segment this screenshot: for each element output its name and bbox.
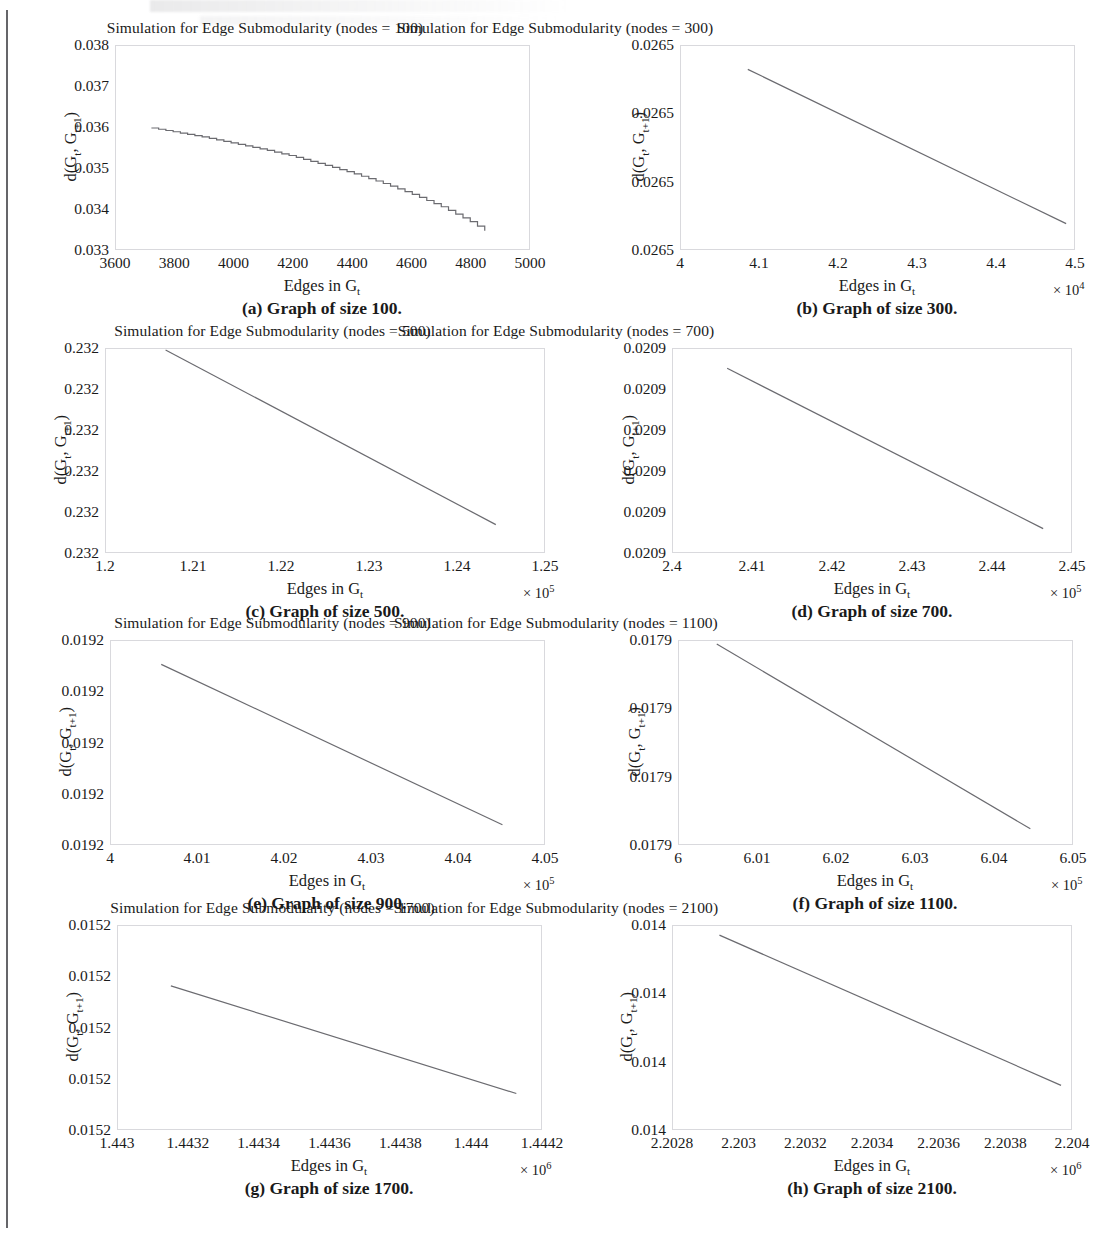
xtick-h-0: 2.2028	[651, 1134, 694, 1152]
figure-grid: Simulation for Edge Submodularity (nodes…	[0, 0, 1112, 1235]
plot-area-h	[672, 925, 1072, 1130]
caption-h: (h) Graph of size 2100.	[787, 1178, 957, 1199]
xtick-h-2: 2.2032	[784, 1134, 827, 1152]
y-axis-label-h: d(Gt, Gt+1)	[617, 956, 638, 1096]
xtick-h-6: 2.204	[1055, 1134, 1090, 1152]
xtick-h-4: 2.2036	[917, 1134, 960, 1152]
chart-panel-h: Simulation for Edge Submodularity (nodes…	[0, 0, 1112, 1235]
xtick-h-1: 2.203	[721, 1134, 756, 1152]
axis-multiplier-h: × 106	[1050, 1160, 1082, 1179]
xtick-h-5: 2.2038	[984, 1134, 1027, 1152]
x-axis-label-h: Edges in Gt	[834, 1156, 910, 1177]
xtick-h-3: 2.2034	[851, 1134, 894, 1152]
ytick-h-3: 0.014	[576, 916, 666, 934]
series-h	[673, 926, 1071, 1129]
chart-title-h: Simulation for Edge Submodularity (nodes…	[0, 899, 1112, 917]
